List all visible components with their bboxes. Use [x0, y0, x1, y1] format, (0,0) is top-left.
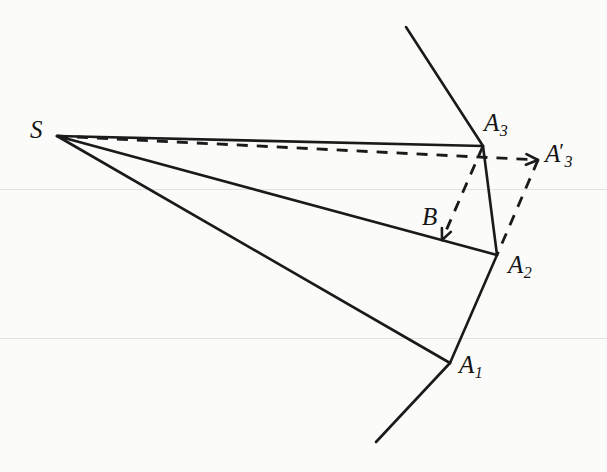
- mirror-a3-a2: [483, 146, 497, 255]
- construction-a3-to-b: [442, 146, 483, 240]
- label-vertex-a3-prime: A′3: [545, 140, 573, 170]
- construction-a3-prime-to-a2: [497, 160, 538, 255]
- ray-s-to-a2: [57, 136, 497, 255]
- mirror-bottom: [376, 363, 450, 442]
- label-vertex-a1: A1: [459, 352, 483, 381]
- figure-canvas: [0, 0, 607, 472]
- dashed-lines-group: [57, 136, 538, 255]
- ray-s-to-a1: [57, 136, 450, 363]
- arrowhead-to-a3-prime: [526, 154, 538, 160]
- label-vertex-a2: A2: [508, 252, 532, 281]
- arrowhead-to-b: [442, 232, 451, 240]
- geometry-figure: S A3 A′3 A2 A1 B: [0, 0, 607, 472]
- mirror-a2-a1: [450, 255, 497, 363]
- label-point-b: B: [422, 204, 437, 229]
- label-vertex-a3: A3: [484, 110, 508, 139]
- mirror-top: [406, 27, 483, 146]
- solid-lines-group: [57, 27, 497, 442]
- label-source-s: S: [30, 117, 43, 142]
- ray-s-to-a3: [57, 136, 483, 146]
